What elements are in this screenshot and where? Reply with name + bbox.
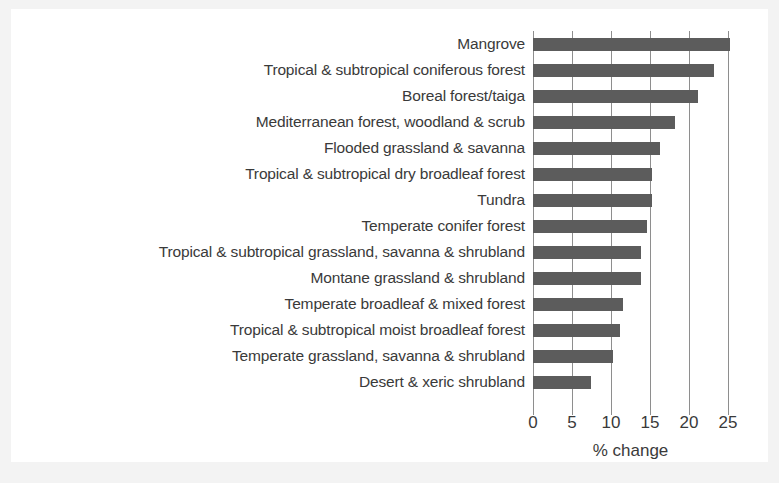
bar-category-label: Mediterranean forest, woodland & scrub xyxy=(256,109,525,135)
bar-row: Temperate broadleaf & mixed forest xyxy=(11,291,768,317)
bar-row: Tundra xyxy=(11,187,768,213)
bar-category-label: Flooded grassland & savanna xyxy=(324,135,525,161)
bar-category-label: Tropical & subtropical dry broadleaf for… xyxy=(245,161,525,187)
bar-row: Boreal forest/taiga xyxy=(11,83,768,109)
x-tick-label-15: 15 xyxy=(641,413,660,433)
chart-card: MangroveTropical & subtropical coniferou… xyxy=(11,9,768,462)
bar-row: Tropical & subtropical dry broadleaf for… xyxy=(11,161,768,187)
x-tick-label-20: 20 xyxy=(680,413,699,433)
bar xyxy=(533,194,652,207)
bar-category-label: Desert & xeric shrubland xyxy=(359,369,525,395)
bar-category-label: Temperate broadleaf & mixed forest xyxy=(285,291,525,317)
bar-category-label: Temperate grassland, savanna & shrubland xyxy=(232,343,525,369)
bar xyxy=(533,168,652,181)
bar-category-label: Temperate conifer forest xyxy=(361,213,525,239)
bar-category-label: Tundra xyxy=(477,187,525,213)
bar-row: Temperate conifer forest xyxy=(11,213,768,239)
bar-row: Mangrove xyxy=(11,31,768,57)
bar-row: Flooded grassland & savanna xyxy=(11,135,768,161)
bar-category-label: Mangrove xyxy=(457,31,525,57)
bar-row: Temperate grassland, savanna & shrubland xyxy=(11,343,768,369)
bar-category-label: Tropical & subtropical grassland, savann… xyxy=(159,239,525,265)
bar xyxy=(533,246,641,259)
bar-row: Mediterranean forest, woodland & scrub xyxy=(11,109,768,135)
bar xyxy=(533,38,730,51)
bar xyxy=(533,220,647,233)
bar-category-label: Tropical & subtropical moist broadleaf f… xyxy=(230,317,525,343)
bar-row: Tropical & subtropical moist broadleaf f… xyxy=(11,317,768,343)
bar-category-label: Boreal forest/taiga xyxy=(402,83,525,109)
bar-chart: MangroveTropical & subtropical coniferou… xyxy=(11,9,768,462)
bar xyxy=(533,298,623,311)
x-tick-label-0: 0 xyxy=(528,413,537,433)
x-tick-label-5: 5 xyxy=(567,413,576,433)
bar xyxy=(533,376,591,389)
chart-page: MangroveTropical & subtropical coniferou… xyxy=(0,0,779,483)
x-axis-tick-labels: 0510152025 xyxy=(11,413,768,439)
bar-row: Tropical & subtropical coniferous forest xyxy=(11,57,768,83)
bar xyxy=(533,350,613,363)
x-tick-label-10: 10 xyxy=(602,413,621,433)
bar xyxy=(533,116,675,129)
bar xyxy=(533,90,698,103)
bar xyxy=(533,324,620,337)
bar-row: Desert & xeric shrubland xyxy=(11,369,768,395)
bar xyxy=(533,142,660,155)
bar xyxy=(533,272,641,285)
bar-row: Montane grassland & shrubland xyxy=(11,265,768,291)
x-axis-title: % change xyxy=(593,441,669,461)
bar-category-label: Montane grassland & shrubland xyxy=(310,265,525,291)
bar-category-label: Tropical & subtropical coniferous forest xyxy=(264,57,525,83)
bar xyxy=(533,64,714,77)
bar-row: Tropical & subtropical grassland, savann… xyxy=(11,239,768,265)
x-tick-label-25: 25 xyxy=(719,413,738,433)
